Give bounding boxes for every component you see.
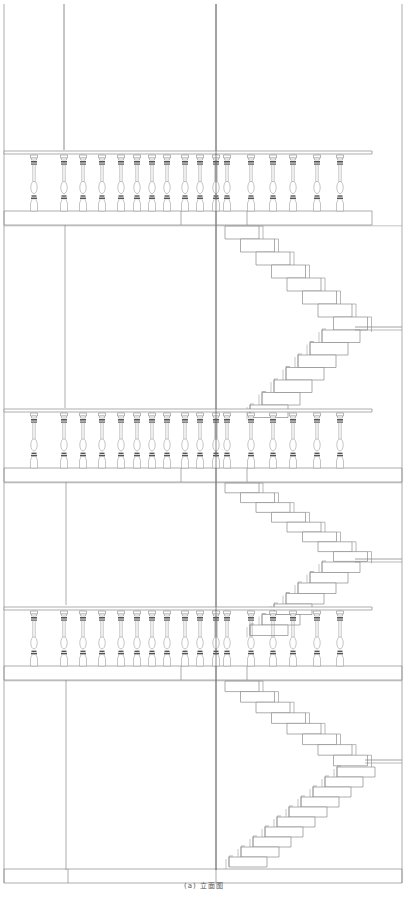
baluster-base — [224, 200, 231, 211]
baluster-band — [224, 620, 230, 621]
stair-step — [301, 797, 339, 807]
stair-step — [318, 304, 352, 317]
baluster-cap — [248, 155, 255, 158]
baluster-base — [182, 200, 189, 211]
baluster-neck — [271, 614, 276, 616]
baluster-vase — [248, 439, 254, 451]
baluster-band — [290, 422, 296, 423]
baluster-band — [61, 164, 67, 165]
baluster-band — [248, 161, 254, 163]
baluster-base — [61, 655, 68, 666]
baluster-band — [224, 164, 230, 165]
baluster-band — [134, 422, 140, 423]
baluster-band — [270, 164, 276, 165]
baluster-vase — [270, 637, 276, 649]
baluster-cap — [224, 155, 231, 158]
baluster-band — [182, 617, 188, 619]
baluster-base — [270, 200, 277, 211]
stair-step — [262, 393, 300, 406]
stair-step — [256, 503, 290, 513]
baluster-neck — [62, 416, 67, 418]
stair-step — [287, 723, 321, 734]
baluster-neck — [81, 158, 86, 160]
baluster-band — [198, 195, 203, 196]
baluster-base — [134, 655, 141, 666]
baluster-band — [164, 419, 170, 421]
baluster-vase — [61, 439, 67, 451]
baluster — [61, 413, 68, 468]
baluster-neck — [225, 416, 230, 418]
baluster-band — [224, 617, 230, 619]
baluster-band — [80, 617, 86, 619]
baluster-band — [100, 453, 105, 454]
baluster-band — [270, 161, 276, 163]
stair-step — [277, 817, 315, 827]
baluster-base — [31, 655, 38, 666]
baluster-band — [135, 453, 140, 454]
stair-step — [253, 837, 291, 847]
baluster-band — [183, 651, 188, 652]
stair-step — [272, 265, 306, 278]
baluster-band — [80, 198, 86, 200]
baluster-cap — [31, 413, 38, 416]
baluster-band — [118, 653, 124, 655]
stair-step — [303, 734, 337, 745]
baluster — [290, 413, 297, 468]
baluster-band — [119, 453, 124, 454]
baluster-base — [290, 457, 297, 468]
baluster-vase — [149, 439, 155, 451]
baluster-cap — [99, 611, 106, 614]
baluster-base — [31, 457, 38, 468]
baluster-neck — [315, 158, 320, 160]
baluster-band — [337, 198, 343, 200]
baluster-band — [149, 455, 155, 457]
baluster-cap — [224, 413, 231, 416]
baluster-cap — [164, 413, 171, 416]
baluster-neck — [150, 614, 155, 616]
flight-middle-down — [225, 483, 372, 563]
baluster-band — [80, 620, 86, 621]
baluster-cap — [118, 611, 125, 614]
stair-step — [241, 239, 275, 252]
baluster-neck — [165, 614, 170, 616]
stair-step — [250, 625, 288, 636]
baluster-neck — [338, 614, 343, 616]
baluster-band — [248, 455, 254, 457]
baluster — [31, 155, 38, 211]
stair-step — [318, 745, 352, 756]
baluster-cap — [182, 155, 189, 158]
baluster-base — [134, 457, 141, 468]
baluster-band — [164, 164, 170, 165]
baluster-base — [314, 200, 321, 211]
baluster-band — [182, 198, 188, 200]
baluster-base — [270, 655, 277, 666]
baluster-band — [31, 653, 37, 655]
baluster-neck — [183, 416, 188, 418]
baluster — [182, 413, 189, 468]
stair-elevation-drawing — [0, 0, 408, 899]
baluster-band — [182, 161, 188, 163]
baluster-band — [135, 195, 140, 196]
baluster-band — [149, 161, 155, 163]
baluster-cap — [270, 611, 277, 614]
baluster-band — [80, 653, 86, 655]
baluster-cap — [149, 611, 156, 614]
baluster-band — [270, 198, 276, 200]
baluster-band — [290, 455, 296, 457]
baluster-band — [164, 161, 170, 163]
baluster-band — [314, 620, 320, 621]
baluster-band — [31, 617, 37, 619]
stair-step — [265, 827, 303, 837]
baluster-band — [99, 422, 105, 423]
baluster-band — [134, 198, 140, 200]
baluster-band — [99, 455, 105, 457]
baluster-vase — [314, 637, 320, 649]
baluster-cap — [61, 413, 68, 416]
floor-2-slab — [4, 468, 402, 483]
baluster-vase — [337, 181, 343, 193]
baluster-base — [337, 655, 344, 666]
baluster-vase — [164, 181, 170, 193]
baluster-band — [224, 161, 230, 163]
baluster-band — [164, 653, 170, 655]
baluster — [248, 413, 255, 468]
